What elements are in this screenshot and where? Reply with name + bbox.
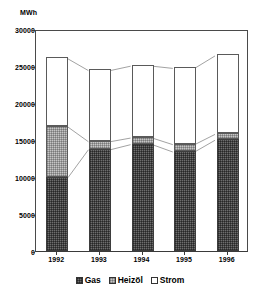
bar-1994[interactable] xyxy=(132,29,154,251)
bar-segment-strom-1995 xyxy=(174,67,196,144)
bar-segment-strom-1996 xyxy=(217,54,239,133)
legend-label-heizoel: Heizöl xyxy=(118,275,143,285)
x-tick-label-1996: 1996 xyxy=(207,256,247,263)
x-tick-label-1993: 1993 xyxy=(79,256,119,263)
bar-segment-strom-1992 xyxy=(46,57,68,126)
x-tick-mark xyxy=(56,252,57,255)
bar-segment-strom-1993 xyxy=(89,69,111,141)
legend-label-gas: Gas xyxy=(85,275,101,285)
x-tick-label-1995: 1995 xyxy=(164,256,204,263)
y-tick-mark xyxy=(32,141,35,142)
bar-1993[interactable] xyxy=(89,29,111,251)
plot-inner xyxy=(36,31,247,251)
x-tick-label-1994: 1994 xyxy=(122,256,162,263)
legend-swatch-strom-icon xyxy=(151,277,158,284)
y-tick-mark xyxy=(32,30,35,31)
chart-legend: Gas Heizöl Strom xyxy=(0,275,260,285)
bar-segment-heizoel-1994 xyxy=(132,137,154,144)
legend-swatch-gas-icon xyxy=(76,277,83,284)
legend-label-strom: Strom xyxy=(160,275,185,285)
bar-segment-heizoel-1993 xyxy=(89,141,111,149)
x-tick-mark xyxy=(184,252,185,255)
legend-item-heizoel[interactable]: Heizöl xyxy=(109,275,143,285)
bar-1992[interactable] xyxy=(46,29,68,251)
chart-container: MWh 050001000015000200002500030000 19921… xyxy=(0,0,260,295)
bar-1995[interactable] xyxy=(174,29,196,251)
bar-segment-heizoel-1995 xyxy=(174,144,196,151)
legend-swatch-heizoel-icon xyxy=(109,277,116,284)
y-axis-unit-label: MWh xyxy=(20,9,37,16)
legend-item-gas[interactable]: Gas xyxy=(76,275,101,285)
y-tick-mark xyxy=(32,67,35,68)
x-tick-mark xyxy=(227,252,228,255)
bar-segment-gas-1994 xyxy=(132,144,154,251)
y-tick-mark xyxy=(32,178,35,179)
bar-segment-gas-1992 xyxy=(46,177,68,251)
y-tick-mark xyxy=(32,215,35,216)
legend-item-strom[interactable]: Strom xyxy=(151,275,185,285)
x-tick-mark xyxy=(142,252,143,255)
y-tick-mark xyxy=(32,252,35,253)
x-tick-label-1992: 1992 xyxy=(36,256,76,263)
bar-segment-gas-1995 xyxy=(174,151,196,251)
bar-segment-gas-1993 xyxy=(89,149,111,251)
bar-1996[interactable] xyxy=(217,29,239,251)
bar-segment-heizoel-1992 xyxy=(46,126,68,177)
x-tick-mark xyxy=(99,252,100,255)
plot-area xyxy=(35,30,248,252)
bar-segment-strom-1994 xyxy=(132,65,154,138)
bar-segment-gas-1996 xyxy=(217,139,239,251)
y-tick-mark xyxy=(32,104,35,105)
